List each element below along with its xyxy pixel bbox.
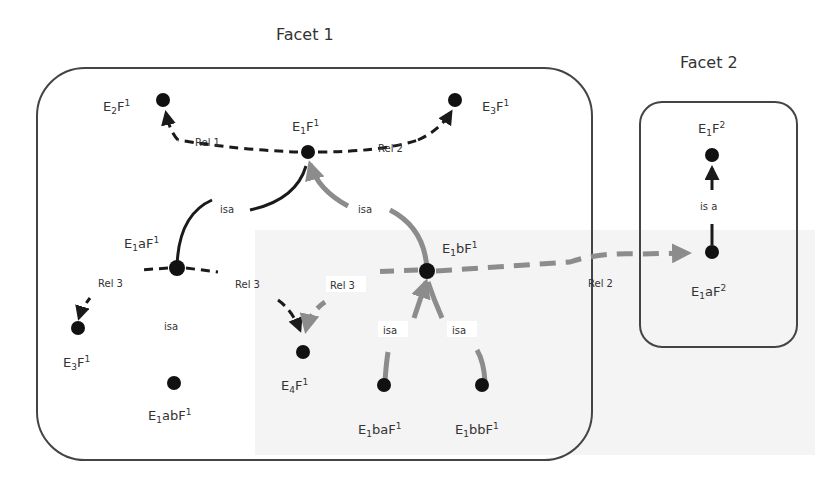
edge-label-isa-e1abf1: isa (164, 321, 178, 332)
node-e4f1[interactable] (296, 345, 310, 359)
edge-label-isa-e1baf1: isa (383, 325, 397, 336)
label-e1f2: E1F2 (698, 120, 725, 138)
label-e1f1: E1F1 (292, 118, 319, 136)
edge-isa-e1bf1-upper (310, 164, 348, 206)
node-e1af2[interactable] (705, 245, 719, 259)
label-e3f1-left: E3F1 (63, 354, 90, 372)
node-e1f1[interactable] (301, 145, 315, 159)
node-e3f1-top[interactable] (448, 93, 462, 107)
edge-label-rel3-gray: Rel 3 (330, 280, 355, 291)
node-e1af1[interactable] (169, 260, 185, 276)
edge-isa-e1af1-upper (250, 166, 306, 210)
edge-rel2-arrow (418, 112, 451, 140)
edge-rel2-line (318, 140, 418, 152)
label-e1af1: E1aF1 (124, 235, 159, 253)
edge-label-isa-facet2: is a (700, 201, 717, 212)
facet-2-title: Facet 2 (680, 53, 738, 72)
edge-label-isa-e1bbf1: isa (452, 325, 466, 336)
ontology-diagram: Facet 1 Facet 2 Rel 1 Rel 2 isa isa Rel … (0, 0, 827, 483)
edge-isa-e1af1-lower (177, 200, 212, 268)
edge-rel3-left-arrow (79, 298, 90, 318)
node-e1abf1[interactable] (167, 376, 181, 390)
edge-label-isa-e1bf1: isa (358, 204, 372, 215)
node-e3f1-left[interactable] (71, 321, 85, 335)
node-e1baf1[interactable] (377, 378, 391, 392)
node-e1bbf1[interactable] (475, 378, 489, 392)
edge-label-rel1: Rel 1 (195, 137, 220, 148)
edge-isa-e1baf1-lower (385, 352, 388, 382)
edge-rel1-arrow (166, 113, 178, 140)
edge-label-rel2: Rel 2 (378, 143, 403, 154)
label-e1bbf1: E1bbF1 (455, 421, 499, 439)
background-panel (255, 230, 815, 455)
label-e3f1-top: E3F1 (482, 98, 509, 116)
edge-label-isa-e1af1: isa (220, 204, 234, 215)
edge-rel3-mid-line (186, 268, 218, 272)
label-e1abf1: E1abF1 (148, 407, 191, 425)
edge-label-rel3-left: Rel 3 (98, 278, 123, 289)
edge-label-rel3-mid: Rel 3 (235, 279, 260, 290)
edge-label-rel2-cross: Rel 2 (588, 278, 613, 289)
node-e2f1[interactable] (156, 93, 170, 107)
node-e1f2[interactable] (705, 148, 719, 162)
node-e1bf1[interactable] (419, 263, 435, 279)
label-e2f1: E2F1 (103, 98, 130, 116)
label-e1baf1: E1baF1 (358, 421, 401, 439)
edge-rel3-left-line (140, 268, 168, 270)
facet-1-title: Facet 1 (276, 25, 334, 44)
